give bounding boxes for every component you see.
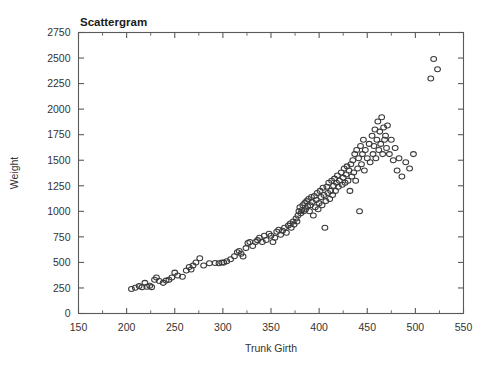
plot-frame <box>79 33 464 314</box>
data-point <box>380 152 386 157</box>
y-tick-label: 0 <box>65 307 71 319</box>
data-point <box>388 137 394 142</box>
data-point <box>358 143 364 148</box>
data-point <box>392 145 398 150</box>
data-point <box>369 133 375 138</box>
y-tick-label: 500 <box>53 256 71 268</box>
data-point <box>201 263 207 268</box>
data-point <box>367 160 373 165</box>
x-tick-label: 250 <box>166 321 184 333</box>
x-tick-label: 500 <box>407 321 425 333</box>
x-tick-label: 200 <box>118 321 136 333</box>
data-point <box>407 166 413 171</box>
data-point <box>386 152 392 157</box>
data-point <box>243 246 249 251</box>
data-point <box>379 115 385 120</box>
data-point <box>322 225 328 230</box>
scatter-plot-svg: Scattergram 1502002503003504004505005500… <box>0 0 502 366</box>
data-point <box>197 256 203 261</box>
data-points <box>129 57 441 292</box>
y-tick-label: 1000 <box>47 205 71 217</box>
data-point <box>347 188 353 193</box>
data-point <box>373 156 379 161</box>
data-point <box>396 156 402 161</box>
x-tick-label: 350 <box>262 321 280 333</box>
x-axis-label: Trunk Girth <box>245 342 297 354</box>
data-point <box>359 162 365 167</box>
y-tick-label: 1500 <box>47 154 71 166</box>
y-tick-label: 750 <box>53 231 71 243</box>
y-tick-label: 1750 <box>47 128 71 140</box>
y-tick-label: 2750 <box>47 26 71 38</box>
scattergram-figure: Scattergram 1502002503003504004505005500… <box>0 0 502 366</box>
data-point <box>411 152 417 157</box>
y-tick-label: 2500 <box>47 52 71 64</box>
data-point <box>353 178 359 183</box>
y-tick-label: 2000 <box>47 103 71 115</box>
data-point <box>207 261 213 266</box>
y-tick-label: 1250 <box>47 180 71 192</box>
y-tick-label: 2250 <box>47 77 71 89</box>
axis-tick-labels: 1502002503003504004505005500250500750100… <box>47 26 472 332</box>
data-point <box>362 148 368 153</box>
x-tick-label: 300 <box>214 321 232 333</box>
data-point <box>310 213 316 218</box>
y-tick-label: 250 <box>53 282 71 294</box>
data-point <box>431 57 437 62</box>
data-point <box>428 76 434 81</box>
data-point <box>394 168 400 173</box>
x-tick-label: 150 <box>70 321 88 333</box>
data-point <box>399 174 405 179</box>
data-point <box>390 158 396 163</box>
x-tick-label: 550 <box>455 321 473 333</box>
data-point <box>384 145 390 150</box>
data-point <box>435 67 441 72</box>
chart-title: Scattergram <box>80 16 147 28</box>
data-point <box>357 209 363 214</box>
data-point <box>361 137 367 142</box>
x-tick-label: 400 <box>310 321 328 333</box>
data-point <box>361 168 367 173</box>
data-point <box>403 160 409 165</box>
y-axis-label: Weight <box>8 157 20 190</box>
x-tick-label: 450 <box>358 321 376 333</box>
data-point <box>129 286 135 291</box>
axis-ticks <box>79 33 464 314</box>
